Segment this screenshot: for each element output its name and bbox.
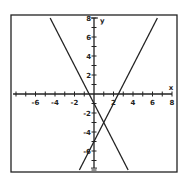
x-tick-label: -2: [71, 99, 79, 107]
x-tick-label: -4: [51, 99, 59, 107]
x-axis-label: x: [169, 84, 174, 92]
x-tick-label: 8: [170, 99, 175, 107]
y-tick-label: 8: [86, 15, 91, 23]
x-tick-label: 6: [150, 99, 155, 107]
y-tick-label: -4: [83, 129, 91, 137]
y-tick-label: 4: [86, 53, 91, 61]
y-tick-label: -2: [83, 110, 91, 118]
x-tick-label: -6: [32, 99, 40, 107]
y-tick-label: 2: [86, 72, 91, 80]
y-axis-label: y: [100, 17, 105, 25]
y-tick-label: 6: [86, 34, 91, 42]
line-chart: -6-4-224688642-2-4-6 x y: [0, 0, 185, 184]
x-tick-label: 4: [131, 99, 136, 107]
tick-labels: -6-4-224688642-2-4-6: [32, 15, 175, 156]
